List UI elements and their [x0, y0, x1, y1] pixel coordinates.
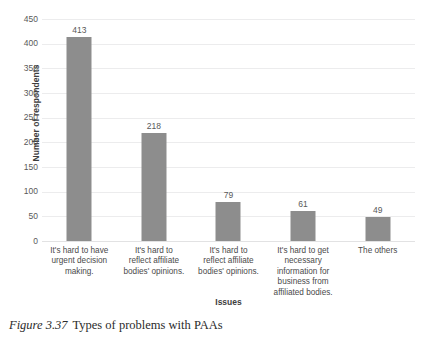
figure-container: Number of respondents 450400350300250200… — [0, 0, 436, 340]
bar-chart: Number of respondents 450400350300250200… — [0, 0, 436, 312]
y-axis-tick-350: 350 — [8, 64, 38, 73]
category-label-line: It's hard to get — [266, 246, 341, 256]
y-axis-tick-200: 200 — [8, 138, 38, 147]
category-label-line: information for — [266, 267, 341, 277]
x-axis-title: Issues — [42, 297, 415, 307]
y-axis-tick-labels: 450400350300250200150100500 — [0, 0, 38, 312]
category-label-line: necessary — [266, 256, 341, 266]
bar-value-label: 79 — [224, 190, 233, 200]
plot-area: 413218796149 — [42, 19, 415, 241]
bar-slot: 413 — [42, 19, 117, 241]
bar[interactable] — [216, 202, 241, 241]
category-label-line: making. — [42, 267, 117, 277]
category-label-line: It's hard to — [117, 246, 192, 256]
bar[interactable] — [67, 37, 92, 241]
y-axis-tick-250: 250 — [8, 113, 38, 122]
bar-series: 413218796149 — [42, 19, 415, 241]
y-axis-tick-50: 50 — [8, 212, 38, 221]
bar-slot: 61 — [266, 19, 341, 241]
bar-slot: 79 — [191, 19, 266, 241]
bar[interactable] — [141, 133, 166, 241]
category-label-line: reflect affiliate — [191, 256, 266, 266]
y-axis-tick-100: 100 — [8, 187, 38, 196]
x-axis-category-label: It's hard to getnecessaryinformation for… — [266, 246, 341, 298]
bar[interactable] — [365, 217, 390, 241]
category-label-line: urgent decision — [42, 256, 117, 266]
y-axis-tick-150: 150 — [8, 163, 38, 172]
bar-slot: 218 — [117, 19, 192, 241]
bar[interactable] — [291, 211, 316, 241]
category-label-line: The others — [340, 246, 415, 256]
category-label-line: bodies' opinions. — [117, 267, 192, 277]
x-axis-category-label: It's hard toreflect affiliatebodies' opi… — [191, 246, 266, 277]
category-label-line: business from — [266, 277, 341, 287]
category-label-line: reflect affiliate — [117, 256, 192, 266]
category-label-line: It's hard to have — [42, 246, 117, 256]
y-axis-tick-400: 400 — [8, 39, 38, 48]
x-axis-category-label: The others — [340, 246, 415, 256]
category-label-line: bodies' opinions. — [191, 267, 266, 277]
x-axis-category-label: It's hard toreflect affiliatebodies' opi… — [117, 246, 192, 277]
bar-value-label: 61 — [298, 199, 307, 209]
x-axis-category-label: It's hard to haveurgent decisionmaking. — [42, 246, 117, 277]
y-axis-tick-0: 0 — [8, 237, 38, 246]
bar-value-label: 218 — [147, 121, 161, 131]
figure-caption-text: Types of problems with PAAs — [73, 318, 223, 332]
figure-caption: Figure 3.37Types of problems with PAAs — [9, 318, 429, 333]
category-label-line: It's hard to — [191, 246, 266, 256]
bar-slot: 49 — [340, 19, 415, 241]
bar-value-label: 413 — [72, 25, 86, 35]
y-axis-tick-300: 300 — [8, 89, 38, 98]
axis-baseline — [42, 241, 415, 242]
figure-caption-number: Figure 3.37 — [9, 318, 68, 332]
y-axis-tick-450: 450 — [8, 15, 38, 24]
bar-value-label: 49 — [373, 205, 382, 215]
